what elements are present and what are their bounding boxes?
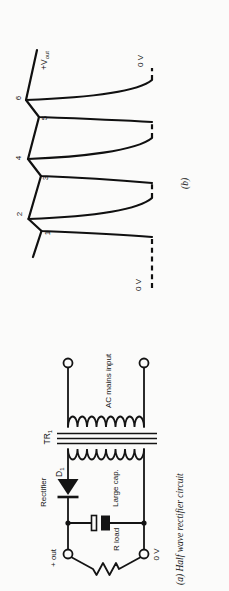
point-label-1: 1 — [43, 230, 52, 235]
rotated-figure-canvas: D1 Rectifier Large cap. + out 0 V — [0, 0, 229, 591]
mains-terminal-top — [64, 359, 73, 368]
point-label-4: 4 — [14, 155, 23, 160]
discharge-line-into-1 — [33, 231, 42, 257]
rectified-pulses — [26, 80, 152, 237]
circuit-panel: D1 Rectifier Large cap. + out 0 V — [39, 353, 186, 585]
caption-a: (a) Half wave rectifier circuit — [175, 473, 186, 585]
diode-triangle — [58, 479, 79, 495]
point-label-6: 6 — [14, 95, 23, 100]
discharge-line-4-5 — [28, 117, 39, 159]
discharge-envelope-lines — [26, 50, 42, 257]
resistor-zigzag — [72, 557, 141, 575]
capacitor-plate-negative — [101, 516, 110, 531]
plus-out-label: + out — [49, 548, 58, 567]
transformer-core — [57, 434, 157, 444]
rectifier-figure: D1 Rectifier Large cap. + out 0 V — [0, 0, 229, 591]
rectifier-label: Rectifier — [39, 477, 48, 507]
point-label-3: 3 — [41, 175, 50, 180]
discharge-line-6-vout — [26, 50, 37, 100]
primary-winding — [68, 417, 144, 428]
discharge-line-2-3 — [29, 176, 42, 219]
capacitor-symbol — [68, 516, 144, 531]
capacitor-label: Large cap. — [111, 469, 120, 507]
diode-symbol — [58, 479, 79, 497]
point-label-5: 5 — [40, 115, 49, 120]
scanned-figure-page: D1 Rectifier Large cap. + out 0 V — [0, 0, 229, 591]
transformer-ref-label: TR1 — [42, 429, 53, 444]
capacitor-plate-positive — [92, 516, 97, 531]
zero-volt-label-left: 0 V — [134, 278, 143, 291]
zero-volt-label-right: 0 V — [136, 54, 145, 67]
vout-label: +Vout — [39, 51, 50, 70]
waveform-panel: 1 2 3 4 5 6 0 V 0 V +Vout (b) — [14, 50, 191, 291]
diode-ref-label: D1 — [54, 467, 65, 477]
caption-b: (b) — [180, 178, 191, 189]
load-label: R load — [112, 528, 121, 551]
point-label-2: 2 — [15, 211, 24, 216]
secondary-winding — [68, 449, 144, 460]
mains-terminal-bottom — [140, 359, 149, 368]
resistor-symbol — [72, 557, 141, 575]
zero-volt-label: 0 V — [152, 548, 161, 561]
ac-mains-input-label: AC mains input — [104, 353, 113, 408]
